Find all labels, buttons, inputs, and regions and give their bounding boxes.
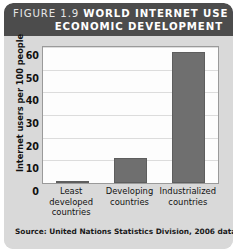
figure-number: FIGURE 1.9 — [13, 8, 79, 19]
y-tick-label: 60 — [18, 51, 39, 61]
figure-title-line-2: ECONOMIC DEVELOPMENT — [55, 21, 223, 32]
figure-title-line-1: WORLD INTERNET USE BY — [83, 8, 233, 19]
source-band: Source: United Nations Statistics Divisi… — [4, 221, 233, 249]
gridline — [43, 47, 218, 48]
figure-header-line-1: FIGURE 1.9 WORLD INTERNET USE BY — [13, 7, 225, 20]
y-tick-label: 10 — [18, 165, 39, 175]
bar — [114, 158, 147, 183]
x-tick-label-line: countries — [36, 207, 106, 218]
x-tick-label: Industrializedcountries — [153, 186, 223, 207]
x-tick-label-line: countries — [153, 197, 223, 208]
source-note: Source: United Nations Statistics Divisi… — [15, 227, 233, 236]
bar — [56, 181, 89, 183]
plot-area — [42, 46, 219, 184]
y-tick-label: 40 — [18, 97, 39, 107]
figure-card: FIGURE 1.9 WORLD INTERNET USE BY ECONOMI… — [4, 3, 233, 249]
x-axis-labels: LeastdevelopedcountriesDevelopingcountri… — [42, 186, 219, 220]
figure-header: FIGURE 1.9 WORLD INTERNET USE BY ECONOMI… — [4, 3, 233, 36]
y-tick-label: 30 — [18, 119, 39, 129]
x-tick-label-line: Industrialized — [153, 186, 223, 197]
y-tick-label: 50 — [18, 74, 39, 84]
figure-header-line-2: ECONOMIC DEVELOPMENT — [13, 20, 225, 33]
chart-area: Internet users per 100 people 0102030405… — [4, 36, 233, 221]
y-tick-label: 20 — [18, 142, 39, 152]
bar — [172, 52, 205, 183]
y-axis-ticks: 0102030405060 — [18, 46, 39, 184]
